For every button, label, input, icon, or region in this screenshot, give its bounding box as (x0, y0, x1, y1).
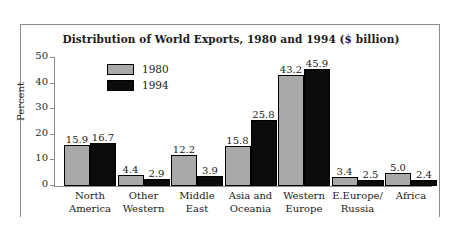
bar[interactable]: 4.4 (118, 175, 144, 186)
bar-value-label: 15.9 (66, 134, 88, 145)
y-tick-mark (50, 134, 55, 135)
category-label: Africa (376, 190, 446, 203)
bar-value-label: 4.4 (123, 164, 139, 175)
y-tick-10: 10 (54, 159, 59, 160)
bar-value-label: 12.2 (173, 144, 195, 155)
bar[interactable]: 2.5 (358, 180, 384, 186)
y-tick-label: 50 (35, 50, 48, 61)
y-tick-mark (50, 185, 55, 186)
bar-value-label: 2.5 (363, 169, 379, 180)
y-axis-line (54, 58, 55, 187)
bar[interactable]: 15.8 (225, 146, 251, 186)
bar[interactable]: 25.8 (251, 120, 277, 186)
y-tick-mark (50, 108, 55, 109)
plot-area: 01020304050 15.916.74.42.912.23.915.825.… (54, 58, 432, 187)
y-tick-0: 0 (54, 185, 59, 186)
bar[interactable]: 15.9 (64, 145, 90, 186)
y-tick-label: 40 (35, 76, 48, 87)
bar[interactable]: 12.2 (171, 155, 197, 186)
bar[interactable]: 5.0 (385, 173, 411, 186)
y-tick-mark (50, 83, 55, 84)
bar-value-label: 45.9 (306, 58, 328, 69)
y-tick-label: 20 (35, 127, 48, 138)
y-axis-title: Percent (15, 82, 26, 121)
bar-value-label: 2.9 (149, 168, 165, 179)
category-label-line: Africa (376, 190, 446, 203)
y-tick-label: 0 (42, 178, 48, 189)
chart-title: Distribution of World Exports, 1980 and … (21, 33, 441, 45)
chart-figure-frame: Distribution of World Exports, 1980 and … (20, 24, 440, 217)
bar[interactable]: 45.9 (304, 69, 330, 187)
bar-value-label: 3.9 (202, 165, 218, 176)
bar-value-label: 3.4 (337, 166, 353, 177)
y-tick-mark (50, 57, 55, 58)
y-tick-30: 30 (54, 108, 59, 109)
x-axis-line (54, 186, 432, 187)
bar[interactable]: 16.7 (90, 143, 116, 186)
category-label-line: Russia (323, 203, 393, 216)
y-tick-label: 30 (35, 101, 48, 112)
y-tick-40: 40 (54, 83, 59, 84)
bar-value-label: 15.8 (226, 135, 248, 146)
bar[interactable]: 43.2 (278, 75, 304, 186)
bar-value-label: 5.0 (390, 162, 406, 173)
bar-value-label: 25.8 (252, 109, 274, 120)
bar[interactable]: 3.4 (332, 177, 358, 186)
y-tick-mark (50, 159, 55, 160)
y-tick-20: 20 (54, 134, 59, 135)
bar-value-label: 2.4 (416, 169, 432, 180)
bar[interactable]: 2.9 (144, 179, 170, 186)
bar-value-label: 16.7 (92, 132, 114, 143)
bar-value-label: 43.2 (280, 64, 302, 75)
y-tick-label: 10 (35, 152, 48, 163)
bar[interactable]: 2.4 (411, 180, 437, 186)
bar[interactable]: 3.9 (197, 176, 223, 186)
y-tick-50: 50 (54, 57, 59, 58)
